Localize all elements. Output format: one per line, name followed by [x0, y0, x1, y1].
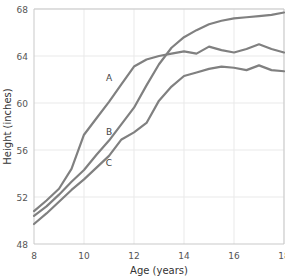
x-tick-label: 18	[278, 251, 285, 261]
x-tick-labels: 81012141618	[31, 251, 285, 261]
series-label-c: C	[106, 158, 112, 168]
x-tick-label: 12	[128, 251, 139, 261]
y-tick-label: 60	[17, 99, 29, 109]
series-curves	[34, 13, 284, 225]
y-tick-label: 52	[17, 193, 28, 203]
y-tick-label: 48	[17, 240, 29, 250]
curve-c	[34, 65, 284, 224]
chart-canvas: 81012141618 485256606468 ABC Age (years)…	[0, 0, 285, 279]
x-tick-label: 10	[78, 251, 90, 261]
y-tick-label: 64	[17, 52, 29, 62]
x-tick-label: 16	[228, 251, 240, 261]
gridlines	[34, 9, 284, 244]
x-axis-title: Age (years)	[130, 265, 188, 276]
line-chart: 81012141618 485256606468 ABC Age (years)…	[0, 0, 285, 279]
y-axis-title: Height (inches)	[2, 88, 13, 164]
axis-lines	[34, 9, 284, 244]
y-tick-label: 68	[17, 5, 29, 15]
y-tick-label: 56	[17, 146, 29, 156]
y-tick-labels: 485256606468	[17, 5, 29, 250]
series-label-b: B	[106, 127, 112, 137]
curve-b	[34, 13, 284, 216]
x-tick-label: 14	[178, 251, 190, 261]
series-label-a: A	[106, 73, 113, 83]
x-tick-label: 8	[31, 251, 37, 261]
